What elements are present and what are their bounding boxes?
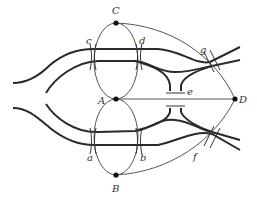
bridge-label-c: c: [86, 35, 92, 46]
node-b: [113, 172, 118, 177]
bridge-label-f: f: [192, 151, 199, 162]
node-d: [232, 96, 237, 101]
bridge-label-d: d: [139, 35, 145, 46]
node-label-a: A: [97, 95, 105, 106]
konigsberg-bridges-diagram: A B C D a b c d e f g: [0, 0, 257, 200]
node-a: [113, 96, 118, 101]
bridge-label-g: g: [200, 44, 206, 55]
node-label-c: C: [112, 5, 120, 16]
node-label-d: D: [238, 94, 247, 105]
bridge-label-a: a: [87, 152, 93, 163]
bridge-label-b: b: [140, 152, 146, 163]
node-label-b: B: [111, 183, 119, 194]
node-c: [113, 20, 118, 25]
bridge-label-e: e: [187, 86, 193, 97]
